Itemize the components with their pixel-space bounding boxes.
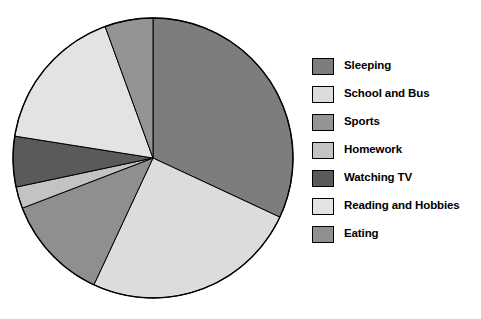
legend-swatch-school-and-bus — [312, 86, 334, 103]
legend-item-homework[interactable]: Homework — [312, 136, 481, 164]
legend-item-reading-and-hobbies[interactable]: Reading and Hobbies — [312, 192, 481, 220]
legend-item-watching-tv[interactable]: Watching TV — [312, 164, 481, 192]
legend-label-school-and-bus: School and Bus — [344, 88, 430, 100]
legend-swatch-watching-tv — [312, 170, 334, 187]
legend-swatch-homework — [312, 142, 334, 159]
legend-swatch-sports — [312, 114, 334, 131]
legend-item-sports[interactable]: Sports — [312, 108, 481, 136]
legend-swatch-sleeping — [312, 58, 334, 75]
pie-svg — [0, 0, 310, 319]
legend-swatch-reading-and-hobbies — [312, 198, 334, 215]
legend-swatch-eating — [312, 226, 334, 243]
legend-item-eating[interactable]: Eating — [312, 220, 481, 248]
legend-label-watching-tv: Watching TV — [344, 172, 412, 184]
chart-legend: SleepingSchool and BusSportsHomeworkWatc… — [312, 52, 481, 248]
legend-label-reading-and-hobbies: Reading and Hobbies — [344, 200, 460, 212]
pie-chart-figure: SleepingSchool and BusSportsHomeworkWatc… — [0, 0, 481, 319]
legend-label-sports: Sports — [344, 116, 380, 128]
legend-label-homework: Homework — [344, 144, 402, 156]
legend-item-school-and-bus[interactable]: School and Bus — [312, 80, 481, 108]
pie-plot-area — [0, 0, 310, 319]
legend-label-sleeping: Sleeping — [344, 60, 391, 72]
legend-label-eating: Eating — [344, 228, 379, 240]
legend-item-sleeping[interactable]: Sleeping — [312, 52, 481, 80]
